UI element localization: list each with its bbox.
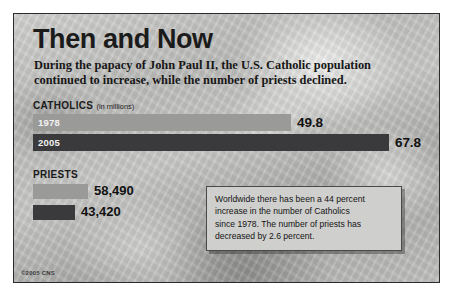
section-heading-catholics: CATHOLICS (in millions) [33, 100, 134, 111]
copyright-notice: ©2005 CNS [21, 270, 55, 276]
priests-label: PRIESTS [33, 169, 78, 180]
section-heading-priests: PRIESTS [33, 169, 78, 180]
callout-box: Worldwide there has been a 44 percent in… [206, 186, 402, 251]
bar-value-catholics-1978: 49.8 [297, 115, 323, 130]
callout-line-3: since 1978. The number of priests has [215, 218, 393, 230]
catholics-unit: (in millions) [96, 102, 134, 111]
bar-priests-2005 [33, 205, 75, 220]
callout-line-2: increase in the number of Catholics [215, 205, 393, 217]
catholics-label: CATHOLICS [33, 100, 93, 111]
subtitle-text: During the papacy of John Paul II, the U… [34, 58, 416, 88]
bar-value-catholics-2005: 67.8 [395, 135, 421, 150]
callout-line-4: decreased by 2.6 percent. [215, 230, 393, 242]
bar-value-priests-2005: 43,420 [81, 204, 121, 219]
bar-catholics-1978: 1978 [33, 114, 291, 131]
bar-value-priests-1978: 58,490 [94, 183, 134, 198]
bar-catholics-2005: 2005 [33, 134, 389, 151]
page-title: Then and Now [33, 26, 213, 53]
bar-year-label: 2005 [38, 137, 60, 148]
bar-priests-1978 [33, 184, 88, 199]
infographic-content: Then and Now During the papacy of John P… [14, 14, 439, 282]
bar-year-label: 1978 [38, 117, 60, 128]
infographic-frame: Then and Now During the papacy of John P… [13, 13, 440, 283]
callout-line-1: Worldwide there has been a 44 percent [215, 193, 393, 205]
